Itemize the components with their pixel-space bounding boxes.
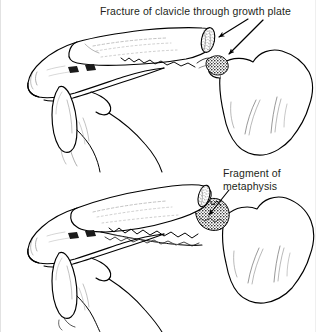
- coracoid-process-upper: [52, 86, 77, 152]
- scapula-neck-lower: [77, 258, 162, 332]
- clavicle-upper: [69, 26, 217, 67]
- scapula-body-upper: [220, 50, 313, 155]
- label-fracture-of-clavicle: Fracture of clavicle through growth plat…: [100, 5, 291, 18]
- foramen-mark: [68, 232, 79, 239]
- foramen-mark: [85, 230, 96, 237]
- scapula-body-lower: [223, 197, 314, 303]
- lower-panel-group: [28, 184, 314, 332]
- leader-arrow-fracture-end: [219, 19, 248, 37]
- upper-panel-group: [28, 26, 313, 172]
- foramen-mark: [85, 64, 96, 71]
- label-fragment-of-metaphysis: Fragment ofmetaphysis: [223, 167, 281, 192]
- clavicle-lower-displaced: [71, 184, 212, 238]
- foramen-mark: [68, 66, 79, 73]
- leader-arrow-growth-plate: [229, 20, 263, 54]
- label-fragment-line1: Fragment of: [223, 167, 281, 179]
- growth-plate-fracture-site-upper: [197, 56, 228, 75]
- label-fragment-line2: metaphysis: [223, 180, 281, 193]
- anatomy-illustration: [1, 0, 316, 332]
- medical-illustration-figure: Fracture of clavicle through growth plat…: [0, 0, 316, 332]
